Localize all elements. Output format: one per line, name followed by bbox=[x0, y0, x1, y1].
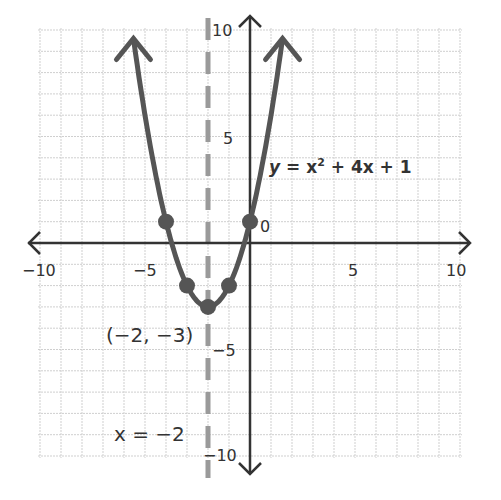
x-tick-label: 10 bbox=[446, 261, 466, 280]
data-point bbox=[179, 278, 195, 294]
x-tick-label: 5 bbox=[348, 261, 358, 280]
vertex-label: (−2, −3) bbox=[106, 323, 193, 347]
y-tick-label: −5 bbox=[212, 341, 236, 360]
x-tick-label: −10 bbox=[22, 261, 56, 280]
x-tick-label: −5 bbox=[133, 261, 157, 280]
data-point bbox=[242, 214, 258, 230]
y-tick-label: 10 bbox=[212, 21, 232, 40]
coordinate-plane: −10 −5 5 10 10 5 0 −5 −10 y = x2 + 4x + … bbox=[0, 0, 501, 500]
data-point bbox=[200, 299, 216, 315]
axis-of-symmetry-label: x = −2 bbox=[114, 422, 185, 446]
data-point bbox=[221, 278, 237, 294]
data-point bbox=[158, 214, 174, 230]
y-tick-label: −10 bbox=[203, 446, 237, 465]
equation-label: y = x2 + 4x + 1 bbox=[269, 156, 412, 177]
y-tick-label: 0 bbox=[260, 217, 270, 236]
y-tick-label: 5 bbox=[223, 129, 233, 148]
